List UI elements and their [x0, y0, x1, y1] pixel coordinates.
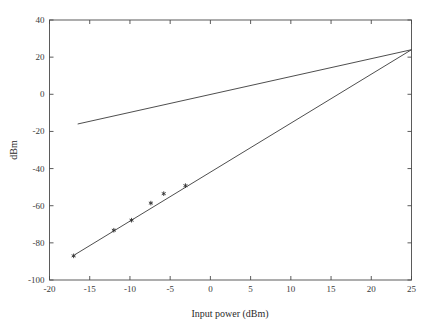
chart-canvas: -20-15-10-50510152025 -100-80-60-40-2002… [0, 0, 430, 330]
x-axis-tick-labels: -20-15-10-50510152025 [44, 284, 417, 294]
axes-rectangle [50, 20, 412, 280]
y-tick-label: 20 [36, 52, 46, 62]
series-line-fundamental-extrapolation [78, 50, 412, 124]
x-tick-label: -5 [166, 284, 174, 294]
x-axis-ticks [50, 20, 412, 280]
x-tick-label: -20 [44, 284, 56, 294]
y-axis-tick-labels: -100-80-60-40-2002040 [28, 15, 45, 285]
x-tick-label: 20 [367, 284, 377, 294]
x-tick-label: 10 [286, 284, 296, 294]
data-point-measured-third-order-points [162, 191, 166, 196]
y-tick-label: -40 [33, 164, 45, 174]
y-tick-label: 40 [36, 15, 46, 25]
y-axis-ticks [50, 20, 412, 280]
series-line-third-order-extrapolation [74, 50, 411, 255]
y-axis-title: dBm [8, 140, 19, 160]
x-tick-label: -10 [124, 284, 136, 294]
data-point-markers [72, 183, 188, 258]
y-tick-label: -100 [28, 275, 45, 285]
y-tick-label: -80 [33, 238, 45, 248]
data-point-measured-third-order-points [149, 201, 153, 206]
x-axis-title: Input power (dBm) [191, 308, 268, 320]
data-point-measured-third-order-points [183, 183, 187, 188]
y-tick-label: -60 [33, 201, 45, 211]
y-tick-label: 0 [40, 89, 45, 99]
x-tick-label: 25 [407, 284, 417, 294]
y-tick-label: -20 [33, 126, 45, 136]
x-tick-label: 15 [327, 284, 337, 294]
x-tick-label: 0 [208, 284, 213, 294]
x-tick-label: -15 [84, 284, 96, 294]
data-point-measured-third-order-points [130, 218, 134, 223]
x-tick-label: 5 [248, 284, 253, 294]
plot-frame [50, 20, 412, 280]
chart-figure: -20-15-10-50510152025 -100-80-60-40-2002… [0, 0, 430, 330]
series-lines [74, 50, 411, 255]
